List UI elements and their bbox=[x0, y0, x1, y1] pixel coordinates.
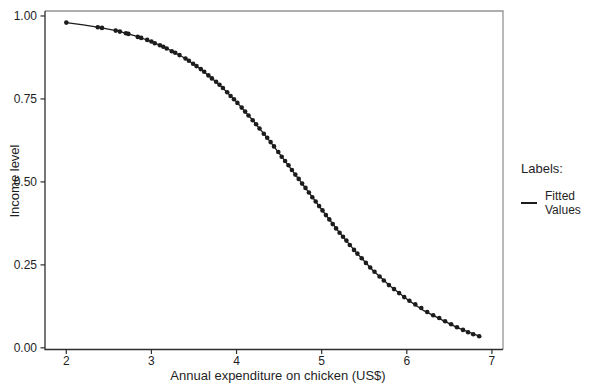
legend-item-label: Fitted Values bbox=[545, 189, 610, 217]
data-point bbox=[268, 140, 273, 145]
x-tick-label: 7 bbox=[489, 354, 496, 368]
data-point bbox=[235, 101, 240, 106]
data-point bbox=[276, 150, 281, 155]
data-point bbox=[431, 313, 436, 318]
data-point bbox=[313, 199, 318, 204]
data-point bbox=[118, 29, 123, 34]
data-point bbox=[466, 330, 471, 335]
data-point bbox=[443, 319, 448, 324]
data-point bbox=[413, 302, 418, 307]
fitted-line-swatch-icon bbox=[521, 202, 537, 204]
data-point bbox=[64, 20, 69, 25]
data-point bbox=[449, 322, 454, 327]
data-point bbox=[327, 217, 332, 222]
legend-item-fitted-values: Fitted Values bbox=[521, 189, 610, 217]
y-tick-label: 0.75 bbox=[14, 92, 38, 106]
data-point bbox=[243, 109, 248, 114]
data-point bbox=[250, 118, 255, 123]
data-point bbox=[344, 238, 349, 243]
data-point bbox=[317, 204, 322, 209]
data-point bbox=[145, 38, 150, 43]
data-point bbox=[419, 306, 424, 311]
data-point bbox=[296, 177, 301, 182]
data-point bbox=[164, 46, 169, 51]
data-point bbox=[382, 278, 387, 283]
data-point bbox=[455, 325, 460, 330]
data-point bbox=[324, 213, 329, 218]
data-point bbox=[96, 25, 101, 30]
x-tick-label: 3 bbox=[148, 354, 155, 368]
data-point bbox=[372, 270, 377, 275]
y-tick-label: 1.00 bbox=[14, 9, 38, 23]
data-point bbox=[257, 126, 262, 131]
data-point bbox=[217, 82, 222, 87]
data-point bbox=[368, 265, 373, 270]
x-tick-label: 6 bbox=[403, 354, 410, 368]
data-point bbox=[341, 234, 346, 239]
y-tick-label: 0.00 bbox=[14, 341, 38, 355]
plot-frame-axes bbox=[45, 11, 503, 350]
data-point bbox=[153, 41, 158, 46]
data-point bbox=[279, 154, 284, 159]
data-point bbox=[293, 172, 298, 177]
legend: Labels: Fitted Values bbox=[521, 161, 610, 217]
data-point bbox=[397, 291, 402, 296]
plot-frame-top-right bbox=[45, 11, 503, 350]
legend-title: Labels: bbox=[521, 161, 610, 176]
data-point bbox=[265, 136, 270, 141]
data-point bbox=[187, 59, 192, 64]
chart-figure: 2345670.000.250.500.751.00 Income level … bbox=[0, 0, 610, 389]
data-point bbox=[232, 97, 237, 102]
y-axis-title: Income level bbox=[7, 145, 22, 218]
data-point bbox=[307, 190, 312, 195]
x-tick-label: 5 bbox=[318, 354, 325, 368]
data-point bbox=[272, 144, 277, 149]
x-tick-label: 4 bbox=[233, 354, 240, 368]
data-point bbox=[392, 287, 397, 292]
data-point bbox=[320, 208, 325, 213]
data-point bbox=[461, 328, 466, 333]
data-point bbox=[202, 69, 207, 74]
y-tick-label: 0.25 bbox=[14, 258, 38, 272]
data-point bbox=[173, 51, 178, 56]
data-point bbox=[425, 310, 430, 315]
data-point bbox=[100, 26, 105, 31]
data-point bbox=[221, 86, 226, 91]
data-point bbox=[246, 113, 251, 118]
data-point bbox=[228, 94, 233, 99]
data-point bbox=[139, 36, 144, 41]
data-point bbox=[177, 53, 182, 58]
data-point bbox=[254, 122, 259, 127]
data-point bbox=[352, 248, 357, 253]
data-point bbox=[364, 261, 369, 266]
plot-area: 2345670.000.250.500.751.00 bbox=[0, 0, 610, 389]
data-point bbox=[126, 32, 131, 37]
data-point bbox=[437, 316, 442, 321]
data-point bbox=[206, 73, 211, 78]
data-point bbox=[194, 64, 199, 69]
fitted-line bbox=[66, 23, 479, 337]
data-point bbox=[303, 186, 308, 191]
data-point bbox=[359, 256, 364, 261]
data-point bbox=[113, 28, 118, 33]
data-point bbox=[387, 283, 392, 288]
data-point bbox=[402, 295, 407, 300]
x-axis-title: Annual expenditure on chicken (US$) bbox=[170, 368, 385, 383]
data-point bbox=[239, 105, 244, 110]
data-point bbox=[334, 226, 339, 231]
data-point bbox=[286, 163, 291, 168]
data-point bbox=[262, 132, 267, 137]
data-point bbox=[355, 251, 360, 256]
x-tick-label: 2 bbox=[63, 354, 70, 368]
data-point bbox=[330, 222, 335, 227]
data-point bbox=[477, 334, 482, 339]
data-point bbox=[471, 332, 476, 337]
data-point bbox=[407, 298, 412, 303]
data-point bbox=[348, 243, 353, 248]
data-point bbox=[225, 90, 230, 95]
data-point bbox=[377, 274, 382, 279]
data-point bbox=[337, 230, 342, 235]
data-point bbox=[310, 195, 315, 200]
data-point bbox=[283, 159, 288, 164]
data-point bbox=[290, 168, 295, 173]
